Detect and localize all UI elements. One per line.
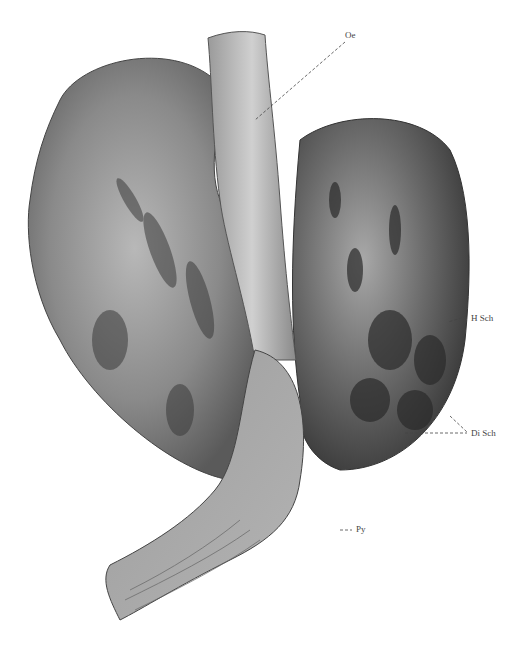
label-di-sch: Di Sch <box>471 428 496 438</box>
anatomical-illustration: Oe H Sch Di Sch Py <box>0 0 526 665</box>
label-h-sch: H Sch <box>471 313 493 323</box>
label-oe: Oe <box>345 30 356 40</box>
label-py: Py <box>356 524 366 534</box>
stomach-illustration <box>0 0 526 665</box>
